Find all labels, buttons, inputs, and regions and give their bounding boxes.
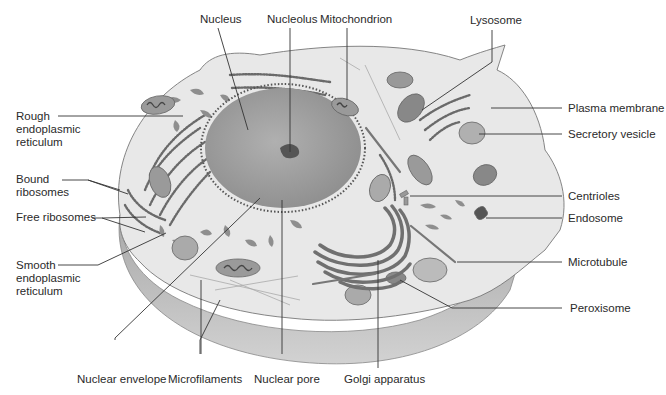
label-nucleus: Nucleus — [200, 13, 242, 26]
label-line: endoplasmic — [16, 272, 106, 285]
label-line: Bound — [16, 173, 106, 186]
label-rough-er: Rough endoplasmic reticulum — [16, 110, 106, 149]
label-line: Rough — [16, 110, 106, 123]
label-line: reticulum — [16, 136, 106, 149]
label-bound-ribosomes: Bound ribosomes — [16, 173, 106, 199]
label-line: reticulum — [16, 285, 106, 298]
label-line: Smooth — [16, 259, 106, 272]
label-mitochondrion: Mitochondrion — [320, 13, 392, 26]
label-smooth-er: Smooth endoplasmic reticulum — [16, 259, 106, 298]
cell-body — [118, 45, 564, 364]
label-nucleolus: Nucleolus — [267, 13, 318, 26]
label-microtubule: Microtubule — [568, 256, 627, 269]
label-line: ribosomes — [16, 186, 106, 199]
label-endosome: Endosome — [568, 212, 623, 225]
label-secretory-vesicle: Secretory vesicle — [568, 128, 656, 141]
label-peroxisome: Peroxisome — [570, 302, 631, 315]
label-nuclear-pore: Nuclear pore — [254, 373, 320, 386]
label-nuclear-envelope: Nuclear envelope — [77, 373, 167, 386]
label-microfilaments: Microfilaments — [168, 373, 242, 386]
label-free-ribosomes: Free ribosomes — [16, 211, 96, 224]
label-lysosome: Lysosome — [470, 14, 522, 27]
label-line: endoplasmic — [16, 123, 106, 136]
label-plasma-membrane: Plasma membrane — [568, 102, 665, 115]
label-centrioles: Centrioles — [568, 190, 620, 203]
label-golgi-apparatus: Golgi apparatus — [344, 373, 425, 386]
cell-diagram: Nucleus Nucleolus Mitochondrion Lysosome… — [0, 0, 666, 395]
secretory-vesicle — [459, 122, 485, 144]
